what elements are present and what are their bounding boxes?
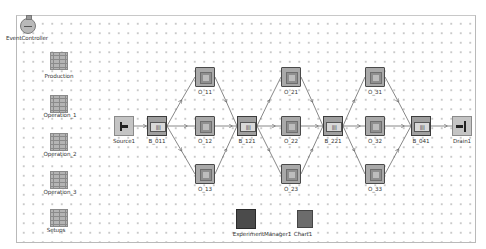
table-icon[interactable] xyxy=(50,52,68,70)
experiment-manager-icon[interactable] xyxy=(236,209,256,229)
table-icon[interactable] xyxy=(50,133,68,151)
table-icon[interactable] xyxy=(50,209,68,227)
setups-label: Setups xyxy=(47,227,66,233)
stopwatch-icon[interactable] xyxy=(20,18,36,34)
o13-label: O_13 xyxy=(198,186,212,192)
o23-label: O_23 xyxy=(284,186,298,192)
station-icon[interactable] xyxy=(195,164,215,184)
station-icon[interactable] xyxy=(195,116,215,136)
b011-label: B_011 xyxy=(149,138,166,144)
o11-label: O_11 xyxy=(198,89,212,95)
station-icon[interactable] xyxy=(281,164,301,184)
buffer-icon[interactable]: |||| xyxy=(147,116,167,136)
station-icon[interactable] xyxy=(195,67,215,87)
o31-label: O_31 xyxy=(368,89,382,95)
station-icon[interactable] xyxy=(365,116,385,136)
o12-label: O_12 xyxy=(198,138,212,144)
b121-label: B_121 xyxy=(239,138,256,144)
buffer-icon[interactable]: |||| xyxy=(411,116,431,136)
table-icon[interactable] xyxy=(50,171,68,189)
station-icon[interactable] xyxy=(365,164,385,184)
station-icon[interactable] xyxy=(281,116,301,136)
o33-label: O_33 xyxy=(368,186,382,192)
operation3-label: Operation_3 xyxy=(43,189,76,195)
table-icon[interactable] xyxy=(50,95,68,113)
drain1-label: Drain1 xyxy=(453,138,471,144)
eventcontroller-label: EventController xyxy=(6,35,48,41)
buffer-icon[interactable]: |||| xyxy=(237,116,257,136)
b221-label: B_221 xyxy=(325,138,342,144)
o22-label: O_22 xyxy=(284,138,298,144)
operation1-label: Operation_1 xyxy=(43,112,76,118)
source1-label: Source1 xyxy=(113,138,135,144)
chart1-label: Chart1 xyxy=(294,231,312,237)
o21-label: O_21 xyxy=(284,89,298,95)
experimentmanager1-label: ExperimentManager1 xyxy=(233,231,292,237)
station-icon[interactable] xyxy=(365,67,385,87)
chart-icon[interactable] xyxy=(297,210,313,228)
b041-label: B_041 xyxy=(413,138,430,144)
buffer-icon[interactable]: |||| xyxy=(323,116,343,136)
drain-icon[interactable] xyxy=(452,116,472,136)
station-icon[interactable] xyxy=(281,67,301,87)
production-label: Production xyxy=(45,73,74,79)
source-icon[interactable] xyxy=(114,116,134,136)
operation2-label: Operation_2 xyxy=(43,151,76,157)
o32-label: O_32 xyxy=(368,138,382,144)
